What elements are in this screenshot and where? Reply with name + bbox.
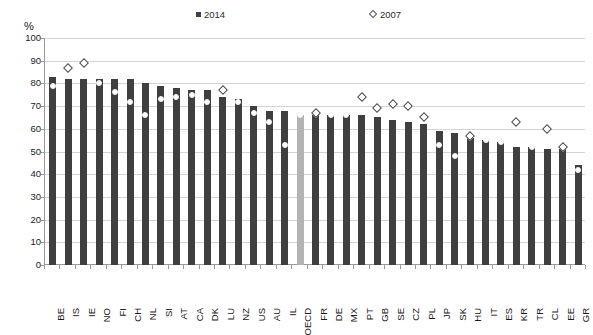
bar-nz	[235, 99, 242, 265]
chart-legend: 2014 2007	[0, 8, 593, 28]
bar-tr	[528, 147, 535, 265]
bar-se	[389, 120, 396, 265]
filled-square-icon	[196, 12, 201, 17]
marker-be	[50, 83, 56, 89]
marker-is	[63, 63, 73, 73]
x-axis-label-no: NO	[102, 308, 112, 322]
x-axis-label-us: US	[257, 308, 267, 321]
x-axis-label-ee: EE	[566, 308, 576, 321]
bar-ie	[80, 79, 87, 265]
bar-gr	[575, 165, 582, 265]
marker-ca	[189, 92, 195, 98]
bar-fr	[312, 115, 319, 265]
x-axis-label-ch: CH	[133, 308, 143, 322]
open-diamond-icon	[369, 10, 377, 18]
x-axis-label-de: DE	[334, 308, 344, 321]
bar-kr	[513, 147, 520, 265]
x-axis-label-hu: HU	[473, 308, 483, 322]
x-axis-label-mx: MX	[349, 308, 359, 322]
x-axis-label-cl: CL	[550, 308, 560, 320]
bar-es	[497, 142, 504, 265]
y-tick-label: 70	[15, 101, 41, 111]
bar-si	[157, 86, 164, 265]
marker-jp	[436, 142, 442, 148]
x-axis-label-es: ES	[504, 308, 514, 321]
marker-lu	[218, 85, 228, 95]
x-axis-label-cz: CZ	[411, 308, 421, 321]
x-axis-label-gr: GR	[581, 308, 591, 322]
marker-at	[173, 94, 179, 100]
legend-item-2014: 2014	[196, 9, 225, 20]
marker-ch	[127, 99, 133, 105]
bar-is	[65, 79, 72, 265]
bar-jp	[436, 131, 443, 265]
bar-cz	[405, 122, 412, 265]
x-axis-label-oecd: OECD	[303, 308, 313, 335]
bar-ca	[188, 90, 195, 265]
y-tick-label: 0	[15, 260, 41, 270]
x-axis-label-au: AU	[272, 308, 282, 321]
bar-us	[250, 106, 257, 265]
bar-fi	[111, 79, 118, 265]
x-axis-label-pl: PL	[427, 308, 437, 320]
y-tick-label: 10	[15, 237, 41, 247]
marker-mx	[343, 112, 349, 118]
x-axis-label-si: SI	[164, 308, 174, 317]
x-axis-label-is: IS	[71, 308, 81, 317]
bar-il	[281, 111, 288, 265]
bar-au	[266, 111, 273, 265]
bar-no	[96, 79, 103, 265]
marker-de	[328, 112, 334, 118]
marker-pt	[357, 92, 367, 102]
x-axis-label-dk: DK	[210, 308, 220, 321]
bar-pt	[358, 115, 365, 265]
x-axis-label-fi: FI	[118, 308, 128, 316]
marker-us	[251, 110, 257, 116]
bar-dk	[204, 90, 211, 265]
x-axis-label-lu: LU	[226, 308, 236, 320]
x-tick-mark	[585, 265, 586, 269]
bar-lu	[219, 97, 226, 265]
marker-no	[96, 80, 102, 86]
x-axis-label-ca: CA	[195, 308, 205, 321]
x-axis-label-gb: GB	[380, 308, 390, 322]
marker-oecd	[297, 112, 303, 118]
bar-nl	[142, 83, 149, 265]
x-axis-label-it: IT	[489, 308, 499, 316]
x-axis-label-kr: KR	[519, 308, 529, 321]
y-tick-label: 30	[15, 192, 41, 202]
y-tick-label: 20	[15, 215, 41, 225]
marker-it	[483, 137, 489, 143]
x-axis-label-ie: IE	[87, 308, 97, 317]
legend-item-2007: 2007	[370, 9, 401, 20]
marker-il	[282, 142, 288, 148]
x-axis-label-pt: PT	[365, 308, 375, 320]
marker-kr	[511, 117, 521, 127]
y-tick-label: 60	[15, 124, 41, 134]
x-axis-label-sk: SK	[458, 308, 468, 321]
marker-es	[498, 139, 504, 145]
bar-it	[482, 140, 489, 265]
y-tick-label: 40	[15, 169, 41, 179]
bar-cl	[544, 149, 551, 265]
bar-ch	[127, 79, 134, 265]
bar-hu	[467, 138, 474, 265]
marker-si	[158, 96, 164, 102]
x-axis-label-nz: NZ	[241, 308, 251, 321]
marker-au	[266, 119, 272, 125]
bar-at	[173, 88, 180, 265]
marker-tr	[529, 144, 535, 150]
series-layer	[45, 38, 586, 265]
x-axis-label-fr: FR	[319, 308, 329, 321]
bar-gb	[374, 117, 381, 265]
x-axis-label-il: IL	[288, 308, 298, 316]
x-axis-label-be: BE	[56, 308, 66, 321]
y-tick-label: 90	[15, 56, 41, 66]
legend-label-2007: 2007	[380, 9, 401, 20]
bar-ee	[559, 149, 566, 265]
bar-de	[327, 115, 334, 265]
x-axis-label-tr: TR	[535, 308, 545, 321]
marker-nl	[142, 112, 148, 118]
marker-gb	[372, 103, 382, 113]
